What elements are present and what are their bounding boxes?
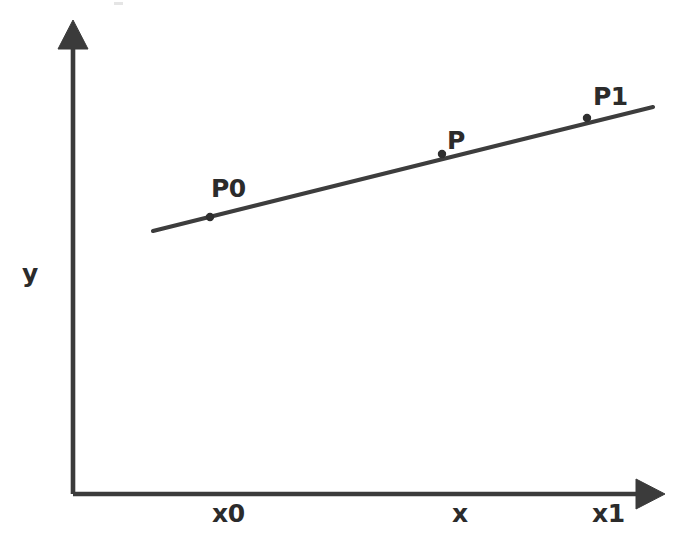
diagram-canvas: [0, 0, 682, 546]
x-axis-arrow-icon: [636, 479, 665, 509]
point-label-p: P: [447, 128, 465, 153]
point-p0: [206, 213, 213, 220]
x-tick-label-x1: x1: [592, 501, 625, 526]
interpolation-diagram: y x0 x x1 P0 P P1: [0, 0, 682, 546]
scan-artifact: [114, 2, 123, 5]
point-label-p1: P1: [593, 84, 628, 109]
y-axis-label: y: [22, 261, 38, 286]
point-p1: [583, 114, 590, 121]
point-p: [438, 150, 445, 157]
x-tick-label-x: x: [452, 501, 468, 526]
y-axis-arrow-icon: [58, 20, 88, 49]
interpolation-line: [153, 107, 653, 231]
point-label-p0: P0: [211, 176, 246, 201]
x-tick-label-x0: x0: [212, 501, 245, 526]
